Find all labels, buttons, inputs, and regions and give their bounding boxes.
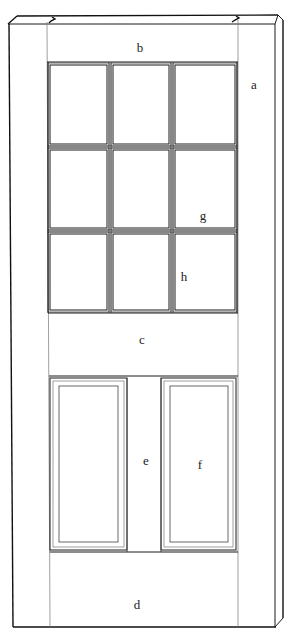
door-side-face [275,15,283,627]
glass-pane [113,234,169,310]
glass-pane [113,65,169,144]
raised-panel [59,386,118,542]
stiles [47,20,238,627]
label-a: a [251,78,257,91]
label-c: c [139,333,145,346]
glass-pane [113,150,169,228]
panel-frame [50,378,127,550]
glass-pane [50,150,107,228]
glass-pane-frame [111,148,171,230]
glass-pane-frame [111,63,171,146]
label-d: d [134,598,141,611]
glass-pane-frame [111,232,171,312]
door-drawing [0,0,289,640]
label-e: e [143,454,149,467]
glass-lights [47,62,238,313]
glass-pane-frame [48,148,109,230]
label-h: h [181,270,188,283]
door-top-edge [8,15,278,24]
glass-pane-frame [173,63,237,146]
glass-pane-frame [48,63,109,146]
panel-bead [53,381,124,547]
label-b: b [137,41,144,54]
label-g: g [200,209,207,222]
label-f: f [198,458,202,471]
glass-pane [175,65,235,144]
glass-pane [50,234,107,310]
glass-pane-frame [48,232,109,312]
door-diagram: a b c d e f g h [0,0,289,640]
glass-pane [50,65,107,144]
